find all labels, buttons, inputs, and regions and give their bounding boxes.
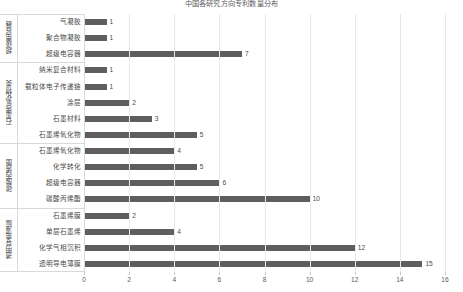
category-label: 超级电容器 xyxy=(46,50,81,58)
bar-value-label: 6 xyxy=(222,179,226,187)
gridline xyxy=(355,14,356,272)
category-label: 气凝胶 xyxy=(60,18,81,26)
x-tick-mark xyxy=(400,272,401,275)
group-separator xyxy=(0,143,84,144)
bar xyxy=(84,196,310,202)
category-label: 石墨材料 xyxy=(53,115,81,123)
plot-area: 超级电容器石墨烯氧化物类碳酸丙烯酯透明导电薄膜 气凝胶聚合物凝胶超级电容器纳米复… xyxy=(0,14,463,272)
gridline xyxy=(265,14,266,272)
x-tick-mark xyxy=(219,272,220,275)
bar-value-label: 5 xyxy=(200,163,204,171)
category-label: 单层石墨烯 xyxy=(46,228,81,236)
bar-value-label: 4 xyxy=(177,228,181,236)
x-tick-mark xyxy=(265,272,266,275)
bar xyxy=(84,116,152,122)
value-axis-line xyxy=(84,14,85,272)
group-label: 碳酸丙烯酯 xyxy=(0,143,17,208)
group-label-text: 碳酸丙烯酯 xyxy=(5,160,12,192)
x-tick-mark xyxy=(355,272,356,275)
x-tick-mark xyxy=(84,272,85,275)
category-label: 石墨烯氧化物 xyxy=(39,147,81,155)
bar-value-label: 12 xyxy=(358,244,365,252)
x-tick-label: 12 xyxy=(351,276,358,284)
bar xyxy=(84,180,219,186)
chart-title: 中国各研究方向专利数量分布 xyxy=(0,0,463,8)
gridline xyxy=(445,14,446,272)
gridline xyxy=(400,14,401,272)
group-label: 石墨烯氧化物类 xyxy=(0,62,17,143)
bar-value-label: 1 xyxy=(110,83,114,91)
group-label: 超级电容器 xyxy=(0,14,17,62)
x-axis: 0246810121416 xyxy=(0,272,463,292)
bar xyxy=(84,213,129,219)
bar xyxy=(84,84,107,90)
category-label: 化学气相沉积 xyxy=(39,244,81,252)
bar-value-label: 1 xyxy=(110,66,114,74)
bar-value-label: 5 xyxy=(200,131,204,139)
x-tick-mark xyxy=(174,272,175,275)
bar-value-label: 1 xyxy=(110,18,114,26)
bar-value-label: 3 xyxy=(155,115,159,123)
bar xyxy=(84,67,107,73)
bar xyxy=(84,19,107,25)
bar-value-label: 15 xyxy=(425,260,432,268)
group-label-text: 石墨烯氧化物类 xyxy=(5,81,12,125)
bar-value-label: 7 xyxy=(245,50,249,58)
group-label-text: 透明导电薄膜 xyxy=(5,221,12,259)
category-label: 纳米复合材料 xyxy=(39,66,81,74)
category-label: 化学转化 xyxy=(53,163,81,171)
bar xyxy=(84,261,422,267)
bar-value-label: 1 xyxy=(110,34,114,42)
x-tick-label: 16 xyxy=(441,276,448,284)
bars-plot-region: 1171123545610241215 xyxy=(84,14,463,272)
group-separator xyxy=(0,208,84,209)
group-separator xyxy=(0,14,84,15)
category-label: 载粒体电子传递链 xyxy=(25,83,81,91)
gridline xyxy=(174,14,175,272)
x-tick-label: 10 xyxy=(306,276,313,284)
category-label: 石墨烯膜 xyxy=(53,212,81,220)
x-tick-mark xyxy=(129,272,130,275)
x-tick-label: 8 xyxy=(263,276,267,284)
category-label: 石墨烯氧化物 xyxy=(39,131,81,139)
x-tick-label: 4 xyxy=(172,276,176,284)
category-label: 超级电容器 xyxy=(46,179,81,187)
bar-value-label: 4 xyxy=(177,147,181,155)
x-tick-label: 6 xyxy=(218,276,222,284)
bar-value-label: 10 xyxy=(313,195,320,203)
x-tick-mark xyxy=(445,272,446,275)
x-tick-label: 14 xyxy=(396,276,403,284)
gridline xyxy=(310,14,311,272)
x-tick-label: 0 xyxy=(82,276,86,284)
x-tick-label: 2 xyxy=(127,276,131,284)
category-label: 透明导电薄膜 xyxy=(39,260,81,268)
bar xyxy=(84,51,242,57)
group-label: 透明导电薄膜 xyxy=(0,208,17,273)
bar xyxy=(84,132,197,138)
x-tick-mark xyxy=(310,272,311,275)
bar xyxy=(84,164,197,170)
bar xyxy=(84,100,129,106)
gridline xyxy=(219,14,220,272)
category-label: 碳酸丙烯酯 xyxy=(46,195,81,203)
bar-value-label: 2 xyxy=(132,99,136,107)
group-separator xyxy=(0,62,84,63)
bar xyxy=(84,35,107,41)
chart-container: 中国各研究方向专利数量分布 超级电容器石墨烯氧化物类碳酸丙烯酯透明导电薄膜 气凝… xyxy=(0,0,463,292)
category-label: 聚合物凝胶 xyxy=(46,34,81,42)
group-label-text: 超级电容器 xyxy=(5,22,12,54)
gridline xyxy=(129,14,130,272)
category-label: 涂层 xyxy=(67,99,81,107)
bar-value-label: 2 xyxy=(132,212,136,220)
